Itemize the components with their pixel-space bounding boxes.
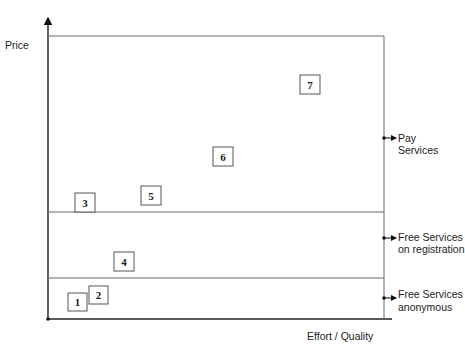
item-label: 6 [220, 151, 226, 163]
item-box-3: 3 [75, 193, 95, 212]
item-label: 2 [96, 289, 102, 301]
y-axis-label: Price [5, 39, 29, 51]
item-box-4: 4 [114, 252, 134, 271]
item-label: 5 [148, 190, 154, 202]
band-pay: Pay Services [382, 132, 438, 156]
item-box-6: 6 [213, 147, 233, 166]
item-box-7: 7 [300, 75, 320, 94]
item-label: 4 [121, 256, 127, 268]
item-box-5: 5 [141, 186, 161, 205]
band-label-line1: Pay [398, 132, 417, 144]
price-quality-diagram: Price Effort / Quality Pay Services Free… [0, 0, 465, 351]
item-box-2: 2 [89, 286, 108, 304]
band-label-line1: Free Services [398, 288, 463, 300]
band-free-anonymous: Free Services anonymous [382, 288, 463, 313]
item-label: 3 [82, 197, 88, 209]
item-label: 1 [75, 296, 81, 308]
band-label-line2: anonymous [398, 301, 452, 313]
origin-dot [46, 317, 50, 321]
item-label: 7 [307, 79, 313, 91]
item-box-1: 1 [68, 293, 87, 311]
band-label-line2: Services [398, 144, 438, 156]
band-label-line2: on registration [398, 243, 465, 255]
band-label-line1: Free Services [398, 231, 463, 243]
band-free-registration: Free Services on registration [382, 231, 464, 255]
x-axis-label: Effort / Quality [307, 330, 374, 342]
